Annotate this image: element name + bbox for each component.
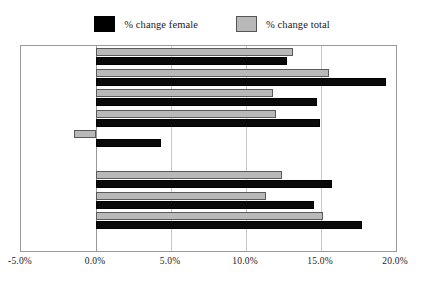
x-axis-tick-labels: -5.0%0.0%5.0%10.0%15.0%20.0% xyxy=(0,256,424,272)
bar-total-1961-62 xyxy=(96,212,323,220)
chart-container: % change female % change total 1969/7019… xyxy=(0,0,424,288)
bar-female-1962-63 xyxy=(96,201,314,209)
legend-entry-total: % change total xyxy=(236,16,330,32)
legend-label-total: % change total xyxy=(266,19,330,30)
x-axis-label--5.0%: -5.0% xyxy=(8,256,32,266)
plot-area xyxy=(20,45,397,252)
bar-female-1968-69 xyxy=(96,78,386,86)
bar-female-1963-64 xyxy=(96,180,332,188)
x-axis-label-10.0%: 10.0% xyxy=(232,256,258,266)
x-axis-label-15.0%: 15.0% xyxy=(307,256,333,266)
x-axis-label-0.0%: 0.0% xyxy=(85,256,106,266)
legend-swatch-female-icon xyxy=(94,16,115,32)
legend-swatch-total-icon xyxy=(236,16,257,32)
bar-female-1961-62 xyxy=(96,221,362,229)
bar-rows xyxy=(21,46,396,251)
bar-row xyxy=(21,212,396,233)
bar-total-1966-67 xyxy=(96,110,276,118)
bar-row xyxy=(21,151,396,172)
bar-row xyxy=(21,130,396,151)
bar-row xyxy=(21,192,396,213)
bar-row xyxy=(21,48,396,69)
bar-total-1963-64 xyxy=(96,171,282,179)
x-axis-label-5.0%: 5.0% xyxy=(160,256,181,266)
x-axis-label-20.0%: 20.0% xyxy=(382,256,408,266)
bar-row xyxy=(21,171,396,192)
bar-total-1965-66 xyxy=(74,130,97,138)
bar-female-1967-68 xyxy=(96,98,317,106)
bar-row xyxy=(21,89,396,110)
bar-total-1969-70 xyxy=(96,48,293,56)
bar-row xyxy=(21,233,396,254)
legend-entry-female: % change female xyxy=(94,16,198,32)
chart-legend: % change female % change total xyxy=(0,12,424,36)
bar-female-1969-70 xyxy=(96,57,287,65)
bar-row xyxy=(21,69,396,90)
bar-female-1965-66 xyxy=(96,139,161,147)
bar-total-1962-63 xyxy=(96,192,266,200)
bar-total-1967-68 xyxy=(96,89,273,97)
bar-row xyxy=(21,110,396,131)
bar-total-1968-69 xyxy=(96,69,329,77)
bar-female-1966-67 xyxy=(96,119,320,127)
legend-label-female: % change female xyxy=(124,19,198,30)
